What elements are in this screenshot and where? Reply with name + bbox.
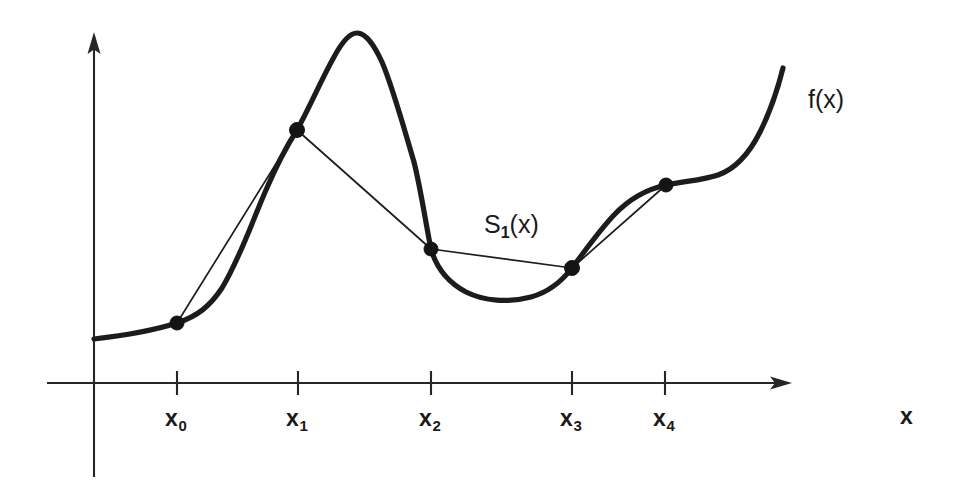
knot-dot-x2	[424, 242, 438, 256]
tick-label-x2-base: x	[419, 405, 432, 431]
tick-label-x0-sub: 0	[179, 417, 188, 434]
tick-label-x2-sub: 2	[433, 417, 442, 434]
tick-label-x1: x1	[286, 405, 308, 432]
tick-label-x2: x2	[419, 405, 441, 432]
tick-label-x1-sub: 1	[300, 417, 309, 434]
tick-label-x3: x3	[560, 405, 582, 432]
knot-dot-x0	[170, 316, 184, 330]
y-axis-group	[88, 32, 101, 477]
function-label-fx: f(x)	[808, 85, 844, 114]
function-curve-fx	[94, 33, 783, 339]
x-axis-group	[47, 377, 792, 390]
figure-canvas: x0 x1 x2 x3 x4 x f(x) S1(x)	[0, 0, 966, 497]
knot-dot-x3	[565, 261, 580, 276]
tick-label-x3-base: x	[560, 405, 573, 431]
tick-label-x4: x4	[653, 405, 675, 432]
tick-label-x0: x0	[165, 405, 187, 432]
spline-label-s1: S1(x)	[484, 210, 539, 239]
x-axis-label: x	[900, 403, 913, 430]
spline-segment-3	[572, 185, 666, 268]
tick-label-x3-sub: 3	[574, 417, 583, 434]
knot-dots-group	[170, 123, 673, 331]
figure-svg	[0, 0, 966, 497]
spline-label-tail: (x)	[510, 210, 539, 238]
tick-label-x1-base: x	[286, 405, 299, 431]
knot-dot-x4	[659, 178, 673, 192]
spline-label-base: S	[484, 210, 501, 238]
spline-label-sub: 1	[501, 224, 510, 241]
tick-label-x4-base: x	[653, 405, 666, 431]
knot-dot-x1	[290, 123, 305, 138]
tick-label-x4-sub: 4	[667, 417, 676, 434]
spline-segment-2	[431, 249, 572, 268]
tick-label-x0-base: x	[165, 405, 178, 431]
